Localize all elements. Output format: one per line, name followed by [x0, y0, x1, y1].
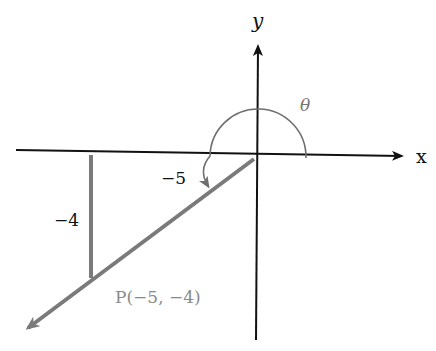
angle-label: θ: [300, 95, 310, 115]
y-axis-label: y: [251, 9, 264, 33]
point-label: P(−5, −4): [115, 287, 201, 307]
angle-arc: [203, 109, 306, 186]
diagram-svg: y x θ −5 −4 P(−5, −4): [0, 0, 436, 351]
x-axis-label: x: [416, 145, 427, 167]
x-axis: [16, 150, 402, 156]
y-axis: [256, 46, 258, 340]
x-leg-label: −5: [161, 168, 186, 188]
y-leg-label: −4: [54, 210, 79, 230]
diagram-canvas: y x θ −5 −4 P(−5, −4): [0, 0, 436, 351]
